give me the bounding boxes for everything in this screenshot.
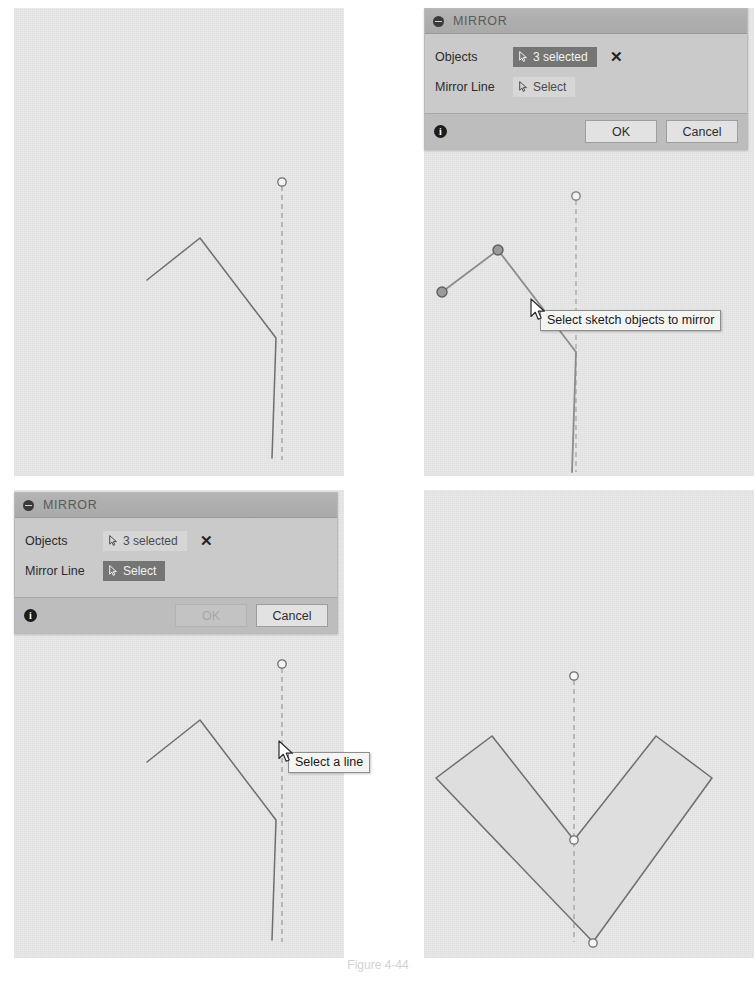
objects-label: Objects [25,534,103,548]
figure-sheet: MIRROR Objects 3 selected ✕ Mirror Line [0,0,756,981]
objects-label: Objects [435,50,513,64]
construction-line-group [278,660,286,942]
select-cursor-icon [109,535,118,546]
mirror-line-endpoint-handle[interactable] [278,178,286,186]
mirror-line-selection-field[interactable]: Select [513,77,575,97]
sketch-polyline[interactable] [147,720,276,940]
mirror-line-endpoint-handle[interactable] [570,672,578,680]
mirror-line-selection-value: Select [533,80,566,94]
dialog-footer: i OK Cancel [15,597,337,633]
dialog-body: Objects 3 selected ✕ Mirror Line Select [425,34,747,113]
panel-step-1-canvas [14,8,344,476]
mirror-line-label: Mirror Line [25,564,103,578]
info-icon[interactable]: i [24,609,37,622]
ok-button: OK [175,604,247,627]
objects-row: Objects 3 selected ✕ [25,527,327,554]
sketch-canvas-step-1 [14,8,344,476]
mirror-line-label: Mirror Line [435,80,513,94]
info-glyph: i [439,126,442,137]
mirror-line-row: Mirror Line Select [25,557,327,584]
mirror-line-selection-field[interactable]: Select [103,561,165,581]
shape-apex-point-handle[interactable] [589,939,597,947]
objects-selection-value: 3 selected [533,50,588,64]
tooltip-select-a-line: Select a line [288,752,370,773]
collapse-minus-icon[interactable] [433,16,444,27]
info-icon[interactable]: i [434,125,447,138]
panel-step-4-canvas [424,490,754,958]
mirror-dialog-step-2[interactable]: MIRROR Objects 3 selected ✕ Mirror Line [424,8,748,150]
mouse-pointer-icon-step-3 [277,740,295,764]
figure-caption: Figure 4-44 [0,958,756,972]
clear-x-icon[interactable]: ✕ [200,533,213,548]
construction-line-group [278,178,286,460]
objects-selection-value: 3 selected [123,534,178,548]
select-cursor-icon [109,565,118,576]
sketch-canvas-step-4 [424,490,754,958]
ok-button[interactable]: OK [585,120,657,143]
collapse-minus-icon[interactable] [23,500,34,511]
objects-row: Objects 3 selected ✕ [435,43,737,70]
cancel-button[interactable]: Cancel [256,604,328,627]
sketch-polyline[interactable] [147,238,276,458]
dialog-title-text: MIRROR [43,498,97,512]
mirror-line-endpoint-handle[interactable] [278,660,286,668]
mirror-line-midpoint-handle[interactable] [570,836,578,844]
cancel-button[interactable]: Cancel [666,120,738,143]
dialog-title-text: MIRROR [453,14,507,28]
select-cursor-icon [519,51,528,62]
select-cursor-icon [519,81,528,92]
mirror-dialog-step-3[interactable]: MIRROR Objects 3 selected ✕ Mirror Line [14,492,338,634]
mouse-pointer-icon-step-2 [529,298,547,322]
dialog-body: Objects 3 selected ✕ Mirror Line Select [15,518,337,597]
mirror-line-row: Mirror Line Select [435,73,737,100]
mirror-line-selection-value: Select [123,564,156,578]
tooltip-select-sketch-objects: Select sketch objects to mirror [540,310,721,331]
sketch-polyline-selected[interactable] [442,250,576,472]
dialog-footer: i OK Cancel [425,113,747,149]
objects-selection-field[interactable]: 3 selected [513,47,597,67]
objects-selection-field[interactable]: 3 selected [103,531,187,551]
selected-vertex-point[interactable] [437,287,447,297]
clear-x-icon[interactable]: ✕ [610,49,623,64]
selected-vertex-point[interactable] [493,245,503,255]
mirror-line-endpoint-handle[interactable] [572,192,580,200]
dialog-title-bar[interactable]: MIRROR [15,493,337,518]
dialog-title-bar[interactable]: MIRROR [425,9,747,34]
info-glyph: i [29,610,32,621]
